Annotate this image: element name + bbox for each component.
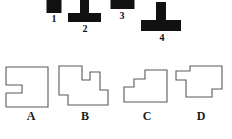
block-3-label: 3 xyxy=(115,11,129,21)
option-a-shape xyxy=(2,63,56,109)
option-b-shape xyxy=(56,63,114,109)
option-a[interactable]: A xyxy=(2,58,60,139)
answer-option-row: A B C D xyxy=(0,58,232,139)
option-c-shape xyxy=(118,63,174,109)
block-4-label: 4 xyxy=(155,33,169,43)
option-d-shape xyxy=(172,63,230,109)
block-4 xyxy=(139,2,185,36)
block-2-label: 2 xyxy=(78,24,92,34)
block-1-label: 1 xyxy=(47,14,61,24)
option-c[interactable]: C xyxy=(118,58,176,139)
option-b-letter: B xyxy=(56,110,114,122)
top-block-row: 1 2 3 4 xyxy=(0,0,232,58)
block-4-glyph xyxy=(139,2,185,36)
option-d[interactable]: D xyxy=(172,58,230,139)
option-d-letter: D xyxy=(172,110,230,122)
figure-root: 1 2 3 4 xyxy=(0,0,232,139)
option-c-letter: C xyxy=(118,110,176,122)
option-a-letter: A xyxy=(2,110,60,122)
option-b[interactable]: B xyxy=(56,58,114,139)
